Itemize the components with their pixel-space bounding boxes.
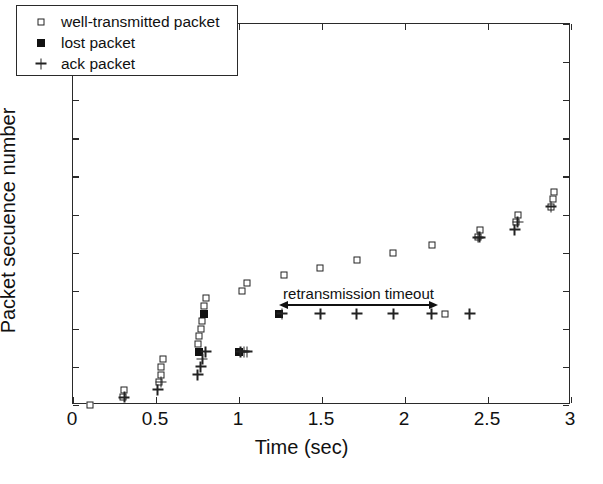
x-tick-top: [239, 24, 240, 30]
point-well-transmitted: [86, 402, 93, 409]
x-tick-label: 2: [399, 408, 410, 430]
point-well-transmitted: [239, 287, 246, 294]
x-tick-label: 0.5: [142, 408, 168, 430]
point-well-transmitted: [201, 302, 208, 309]
y-tick: [73, 329, 79, 330]
point-ack: [242, 346, 253, 357]
figure: Packet secuence number Time (sec) retran…: [0, 0, 603, 484]
y-tick: [73, 405, 79, 406]
y-tick: [73, 367, 79, 368]
point-well-transmitted: [196, 333, 203, 340]
point-ack: [512, 217, 523, 228]
point-ack: [351, 308, 362, 319]
legend-item-lost: lost packet: [17, 32, 237, 53]
point-ack: [546, 201, 557, 212]
point-ack: [277, 308, 288, 319]
y-tick: [73, 215, 79, 216]
y-tick-right: [563, 138, 569, 139]
open-square-icon: [27, 15, 61, 29]
point-ack: [474, 232, 485, 243]
point-well-transmitted: [157, 363, 164, 370]
point-ack: [200, 346, 211, 357]
x-tick: [239, 397, 240, 403]
point-ack: [426, 308, 437, 319]
x-tick-label: 1.5: [308, 408, 334, 430]
annotation-arrowhead-left: [279, 301, 288, 309]
y-tick-right: [563, 62, 569, 63]
legend: well-transmitted packet lost packet ack …: [16, 5, 238, 76]
y-axis-title-text: Packet secuence number: [0, 107, 21, 333]
legend-item-well-transmitted: well-transmitted packet: [17, 11, 237, 32]
x-tick: [405, 397, 406, 403]
x-tick-top: [322, 24, 323, 30]
y-tick-right: [563, 329, 569, 330]
point-well-transmitted: [197, 325, 204, 332]
point-well-transmitted: [390, 249, 397, 256]
point-well-transmitted: [441, 310, 448, 317]
point-well-transmitted: [353, 257, 360, 264]
y-axis-title: Packet secuence number: [0, 30, 22, 410]
x-tick-top: [571, 24, 572, 30]
annotation-label: retransmission timeout: [283, 285, 434, 302]
point-well-transmitted: [551, 188, 558, 195]
legend-item-ack: ack packet: [17, 53, 237, 74]
y-tick-right: [563, 100, 569, 101]
point-well-transmitted: [199, 318, 206, 325]
y-tick-right: [563, 24, 569, 25]
x-axis-title: Time (sec): [0, 436, 603, 459]
point-well-transmitted: [280, 272, 287, 279]
y-tick-right: [563, 215, 569, 216]
point-lost: [200, 310, 208, 318]
annotation-arrow-line: [285, 304, 432, 306]
y-tick-right: [563, 291, 569, 292]
y-tick-right: [563, 176, 569, 177]
x-tick-label: 3: [565, 408, 576, 430]
point-well-transmitted: [202, 295, 209, 302]
legend-label: well-transmitted packet: [61, 13, 220, 31]
x-tick-label: 2.5: [474, 408, 500, 430]
y-tick-right: [563, 367, 569, 368]
point-ack: [464, 308, 475, 319]
plot-area: retransmission timeout: [72, 23, 570, 404]
legend-label: lost packet: [61, 34, 135, 52]
plus-icon: [27, 57, 61, 71]
x-tick: [488, 397, 489, 403]
annotation-arrowhead-right: [429, 301, 438, 309]
y-tick: [73, 253, 79, 254]
x-tick: [322, 397, 323, 403]
x-tick-label: 1: [233, 408, 244, 430]
x-tick: [571, 397, 572, 403]
point-well-transmitted: [317, 264, 324, 271]
point-ack: [388, 308, 399, 319]
x-tick-label: 0: [67, 408, 78, 430]
point-well-transmitted: [244, 280, 251, 287]
y-tick-right: [563, 253, 569, 254]
y-tick: [73, 176, 79, 177]
point-ack: [119, 392, 130, 403]
y-tick-right: [563, 405, 569, 406]
point-well-transmitted: [428, 241, 435, 248]
filled-square-icon: [27, 36, 61, 50]
x-tick: [156, 397, 157, 403]
y-tick: [73, 291, 79, 292]
y-tick: [73, 100, 79, 101]
legend-label: ack packet: [61, 55, 135, 73]
point-ack: [155, 377, 166, 388]
x-tick: [73, 397, 74, 403]
point-well-transmitted: [159, 356, 166, 363]
x-tick-top: [405, 24, 406, 30]
x-tick-top: [488, 24, 489, 30]
point-ack: [315, 308, 326, 319]
y-tick: [73, 138, 79, 139]
